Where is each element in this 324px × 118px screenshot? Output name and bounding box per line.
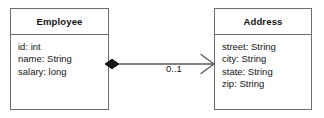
attribute-row: city: String xyxy=(222,53,311,65)
class-name-address: Address xyxy=(243,17,282,27)
class-name-employee: Employee xyxy=(36,17,82,27)
uml-class-diagram: Employee id: int name: String salary: lo… xyxy=(0,0,324,118)
attribute-row: zip: String xyxy=(222,78,311,90)
class-header-address: Address xyxy=(215,9,311,35)
class-box-employee[interactable]: Employee id: int name: String salary: lo… xyxy=(10,8,109,110)
attribute-row: salary: long xyxy=(18,66,108,78)
attribute-row: street: String xyxy=(222,41,311,53)
class-attributes-address: street: String city: String state: Strin… xyxy=(215,35,311,91)
association-connector[interactable] xyxy=(104,44,220,86)
attribute-row: state: String xyxy=(222,66,311,78)
class-box-address[interactable]: Address street: String city: String stat… xyxy=(214,8,312,110)
class-attributes-employee: id: int name: String salary: long xyxy=(11,35,108,78)
attribute-row: id: int xyxy=(18,41,108,53)
class-header-employee: Employee xyxy=(11,9,108,35)
association-multiplicity-label: 0..1 xyxy=(166,64,182,74)
composition-diamond-icon xyxy=(105,59,119,69)
attribute-row: name: String xyxy=(18,53,108,65)
